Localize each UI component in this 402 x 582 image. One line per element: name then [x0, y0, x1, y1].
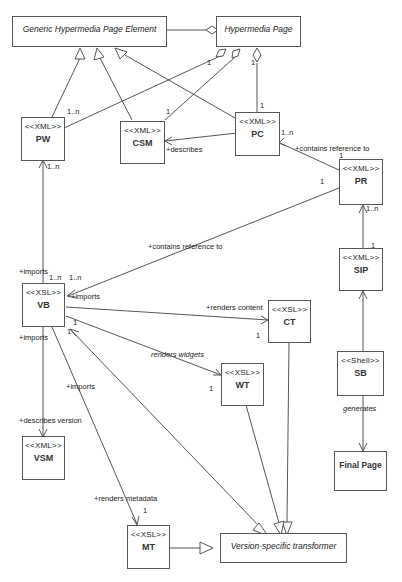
mult-vb-br1: 1: [73, 319, 77, 327]
mult-vb-top2: 1..n: [69, 274, 82, 282]
label-generates: generates: [343, 405, 376, 413]
class-sip[interactable]: <<XML>> SIP: [339, 248, 383, 291]
stereotype: <<XML>>: [340, 164, 382, 173]
class-name: VSM: [23, 453, 64, 463]
class-vsm[interactable]: <<XML>> VSM: [22, 436, 65, 480]
label-contains-reference-pc: +contains reference to: [295, 145, 369, 153]
mult-hp-diamond: 1: [207, 59, 211, 67]
label-renders-widgets: renders widgets: [151, 351, 204, 359]
class-final-page[interactable]: Final Page: [334, 451, 387, 491]
mult-pr-top: 1: [339, 152, 343, 160]
class-name: MT: [128, 542, 169, 552]
stereotype: <<XSL>>: [128, 530, 169, 539]
label-renders-content: +renders content: [206, 304, 263, 312]
stereotype: <<XSL>>: [222, 368, 263, 377]
mult-vb-br2: 1: [67, 328, 71, 336]
mult-vb-top1: 1..n: [49, 274, 62, 282]
label-imports-vsm: +imports: [19, 334, 48, 342]
class-name: CSM: [121, 138, 164, 148]
label-imports-mt: +imports: [66, 383, 95, 391]
stereotype: <<XML>>: [121, 126, 164, 135]
class-hypermedia-page[interactable]: Hypermedia Page: [216, 16, 301, 47]
class-mt[interactable]: <<XSL>> MT: [127, 525, 170, 569]
mult-pw-bottom: 1..n: [47, 163, 60, 171]
class-version-specific-transformer[interactable]: Version-specific transformer: [220, 533, 347, 563]
stereotype: <<XSL>>: [23, 288, 64, 297]
mult-ct-left: 1: [256, 332, 260, 340]
label-contains-reference-vb: +contains reference to: [148, 243, 222, 251]
mult-pc-right: 1..n: [281, 129, 294, 137]
class-pc[interactable]: <<XML>> PC: [235, 112, 280, 156]
class-sb[interactable]: <<Shell>> SB: [337, 351, 384, 396]
label-renders-metadata: +renders metadata: [94, 495, 157, 503]
class-pr[interactable]: <<XML>> PR: [339, 159, 383, 205]
class-name: SIP: [340, 265, 382, 275]
stereotype: <<XML>>: [340, 253, 382, 262]
label-describes-version: +describes version: [19, 417, 82, 425]
class-name: PR: [340, 176, 382, 186]
class-name: WT: [222, 380, 263, 390]
stereotype: <<XML>>: [236, 117, 279, 126]
mult-csm-top: 1: [166, 108, 170, 116]
class-name: CT: [269, 317, 310, 327]
mult-hp-pc: 1: [251, 59, 255, 67]
stereotype: <<XML>>: [23, 441, 64, 450]
stereotype: <<Shell>>: [338, 356, 383, 365]
class-wt[interactable]: <<XSL>> WT: [221, 363, 264, 406]
stereotype: <<XSL>>: [269, 305, 310, 314]
class-name: SB: [338, 368, 383, 378]
class-ct[interactable]: <<XSL>> CT: [268, 300, 311, 343]
class-csm[interactable]: <<XML>> CSM: [120, 121, 165, 164]
class-name: PC: [236, 129, 279, 139]
mult-mt-top: 1: [143, 507, 147, 515]
label-imports-vb: +imports: [71, 293, 100, 301]
class-name: PW: [22, 134, 64, 144]
class-name: VB: [23, 300, 64, 310]
class-name: Final Page: [335, 460, 386, 470]
class-generic-hypermedia-page-element[interactable]: Generic Hypermedia Page Element: [12, 16, 167, 47]
mult-pc-top: 1: [260, 102, 264, 110]
mult-pw-top: 1..n: [67, 108, 80, 116]
stereotype: <<XML>>: [22, 122, 64, 131]
mult-pr-bottom: 1..n: [366, 205, 379, 213]
label-describes: +describes: [166, 146, 202, 154]
mult-wt-left: 1: [209, 385, 213, 393]
class-vb[interactable]: <<XSL>> VB: [22, 283, 65, 327]
mult-pr-left: 1: [320, 178, 324, 186]
mult-sip-top: 1: [371, 242, 375, 250]
label-imports-pw: +imports: [19, 268, 48, 276]
class-pw[interactable]: <<XML>> PW: [21, 117, 65, 161]
